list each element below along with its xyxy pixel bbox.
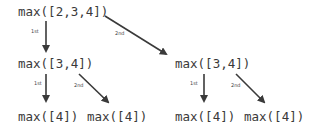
edge-label-second: 2nd bbox=[74, 82, 84, 88]
node-l2-rl: max([4]) bbox=[175, 110, 235, 124]
edge-label-first: 1st bbox=[31, 28, 39, 34]
edge-label-first: 1st bbox=[190, 80, 198, 86]
node-l2-ll: max([4]) bbox=[18, 110, 78, 124]
node-l2-lr: max([4]) bbox=[87, 110, 147, 124]
call-tree-diagram: max([2,3,4]) 1st 2nd max([3,4]) max([3,4… bbox=[0, 0, 315, 130]
node-l2-rr: max([4]) bbox=[244, 110, 304, 124]
node-l1-left: max([3,4]) bbox=[18, 57, 93, 71]
edge-label-second: 2nd bbox=[231, 82, 241, 88]
edge-label-first: 1st bbox=[34, 80, 42, 86]
node-root: max([2,3,4]) bbox=[18, 5, 108, 19]
node-l1-right: max([3,4]) bbox=[175, 57, 250, 71]
edge-label-second: 2nd bbox=[115, 30, 125, 36]
arrow-right-rr bbox=[236, 74, 264, 102]
arrow-left-lr bbox=[79, 74, 108, 102]
